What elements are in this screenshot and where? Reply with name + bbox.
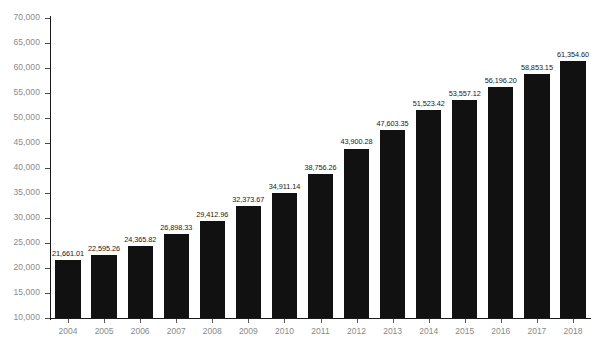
bar-value-label: 32,373.67 xyxy=(223,195,273,204)
bar[interactable] xyxy=(200,221,225,318)
bar-value-label: 34,911.14 xyxy=(259,182,309,191)
bar-value-label: 26,898.33 xyxy=(151,223,201,232)
x-axis-tick-mark xyxy=(429,319,430,323)
x-axis-tick-mark xyxy=(393,319,394,323)
bar[interactable] xyxy=(488,87,513,318)
x-axis-tick-label: 2018 xyxy=(555,326,591,336)
bar-value-label: 53,557.12 xyxy=(440,89,490,98)
plot-area: 21,661.0122,595.2624,365.8226,898.3329,4… xyxy=(50,18,591,318)
x-axis-tick-label: 2011 xyxy=(302,326,338,336)
y-axis-tick-label: 15,000 xyxy=(13,287,40,297)
y-axis-tick-label: 25,000 xyxy=(13,237,40,247)
y-axis-tick-label: 65,000 xyxy=(13,37,40,47)
bar[interactable] xyxy=(380,130,405,318)
bar[interactable] xyxy=(524,74,549,318)
bar[interactable] xyxy=(55,260,80,318)
y-axis-tick-label: 55,000 xyxy=(13,87,40,97)
y-axis-tick-label: 10,000 xyxy=(13,312,40,322)
x-axis-tick-label: 2005 xyxy=(86,326,122,336)
x-axis-tick-mark xyxy=(501,319,502,323)
x-axis-tick-mark xyxy=(104,319,105,323)
bar[interactable] xyxy=(560,61,585,318)
bar[interactable] xyxy=(416,110,441,318)
bar-value-label: 22,595.26 xyxy=(79,244,129,253)
bar[interactable] xyxy=(272,193,297,318)
x-axis-tick-label: 2007 xyxy=(158,326,194,336)
x-axis-tick-label: 2012 xyxy=(339,326,375,336)
x-axis-tick-mark xyxy=(140,319,141,323)
y-axis-tick-label: 20,000 xyxy=(13,262,40,272)
bar-value-label: 43,900.28 xyxy=(332,137,382,146)
x-axis-tick-label: 2014 xyxy=(411,326,447,336)
bar-value-label: 29,412.96 xyxy=(187,210,237,219)
x-axis-tick-mark xyxy=(573,319,574,323)
y-axis-tick-label: 70,000 xyxy=(13,12,40,22)
bar-value-label: 51,523.42 xyxy=(404,99,454,108)
bar-value-label: 38,756.26 xyxy=(295,163,345,172)
x-axis-tick-label: 2013 xyxy=(375,326,411,336)
y-axis-tick-label: 40,000 xyxy=(13,162,40,172)
bar-value-label: 61,354.60 xyxy=(548,50,598,59)
bar[interactable] xyxy=(128,246,153,318)
y-axis-tick-label: 30,000 xyxy=(13,212,40,222)
bar-value-label: 56,196.20 xyxy=(476,76,526,85)
x-axis-tick-mark xyxy=(176,319,177,323)
bar[interactable] xyxy=(164,234,189,318)
y-axis-tick-label: 35,000 xyxy=(13,187,40,197)
y-axis-tick-label: 60,000 xyxy=(13,62,40,72)
bar[interactable] xyxy=(452,100,477,318)
bar[interactable] xyxy=(308,174,333,318)
y-axis-tick-label: 45,000 xyxy=(13,137,40,147)
x-axis-tick-label: 2016 xyxy=(483,326,519,336)
x-axis-tick-mark xyxy=(537,319,538,323)
x-axis-tick-label: 2015 xyxy=(447,326,483,336)
x-axis-tick-label: 2006 xyxy=(122,326,158,336)
x-axis-tick-mark xyxy=(321,319,322,323)
bar-value-label: 24,365.82 xyxy=(115,235,165,244)
x-axis-tick-mark xyxy=(248,319,249,323)
y-axis-tick-label: 50,000 xyxy=(13,112,40,122)
bar[interactable] xyxy=(344,149,369,319)
x-axis-tick-label: 2009 xyxy=(230,326,266,336)
x-axis-tick-mark xyxy=(212,319,213,323)
bar[interactable] xyxy=(91,255,116,318)
bar-chart: 70,00065,00060,00055,00050,00045,00040,0… xyxy=(0,0,599,343)
x-axis-tick-label: 2008 xyxy=(194,326,230,336)
x-axis-tick-mark xyxy=(284,319,285,323)
x-axis-tick-label: 2010 xyxy=(266,326,302,336)
bar[interactable] xyxy=(236,206,261,318)
x-axis-tick-mark xyxy=(465,319,466,323)
x-axis-tick-label: 2004 xyxy=(50,326,86,336)
x-axis-tick-label: 2017 xyxy=(519,326,555,336)
y-axis-tick-mark xyxy=(45,318,50,319)
x-axis-tick-mark xyxy=(68,319,69,323)
bar-value-label: 47,603.35 xyxy=(368,119,418,128)
bar-value-label: 58,853.15 xyxy=(512,63,562,72)
x-axis-tick-mark xyxy=(357,319,358,323)
